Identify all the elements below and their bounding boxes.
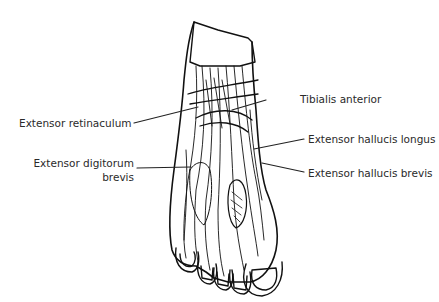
label-extensor-hallucis-brevis: Extensor hallucis brevis — [308, 167, 433, 179]
label-extensor-hallucis-longus: Extensor hallucis longus — [308, 133, 436, 145]
label-extensor-digitorum-brevis-line2: brevis — [32, 171, 134, 183]
label-extensor-digitorum-brevis-line1: Extensor digitorum — [32, 157, 134, 169]
foot-anatomy-diagram: Extensor retinaculum Extensor digitorum … — [0, 0, 439, 302]
leg-cut-outline — [190, 22, 255, 66]
label-extensor-retinaculum: Extensor retinaculum — [19, 117, 132, 129]
label-tibialis-anterior: Tibialis anterior — [300, 93, 381, 105]
foot-illustration — [0, 0, 439, 302]
